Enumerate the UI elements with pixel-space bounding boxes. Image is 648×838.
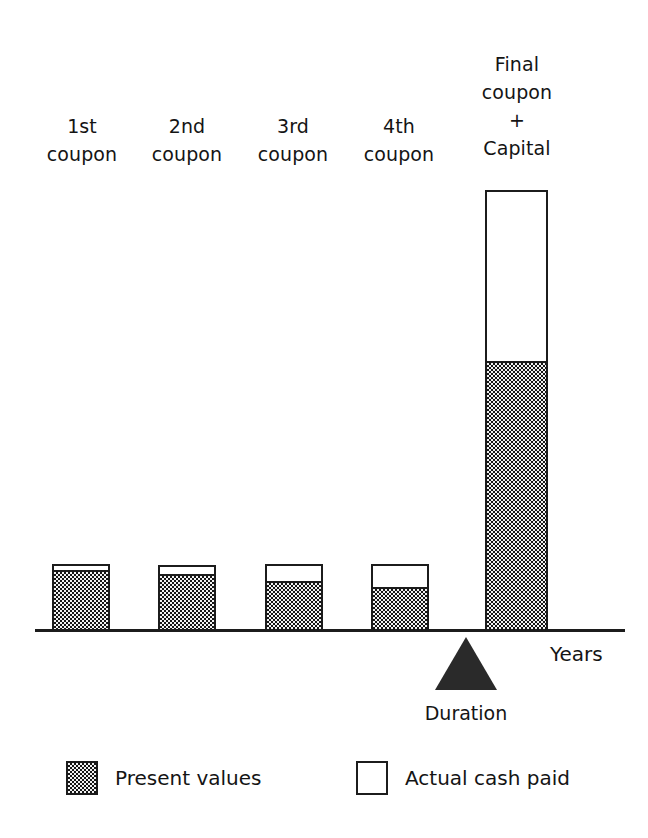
x-axis-line	[35, 629, 625, 632]
years-axis-label: Years	[550, 643, 603, 665]
bar-3rd-coupon	[265, 564, 323, 631]
bar-segment-present-value	[54, 570, 108, 629]
legend-item-present-values: Present values	[66, 758, 261, 798]
duration-label: Duration	[405, 702, 527, 724]
legend-item-actual-cash-paid: Actual cash paid	[356, 758, 570, 798]
duration-marker-triangle	[435, 637, 497, 690]
bar-segment-present-value	[267, 581, 321, 629]
bar-1st-coupon	[52, 564, 110, 631]
bar-final-coupon-capital	[485, 190, 548, 631]
bar-segment-present-value	[160, 574, 214, 629]
bar-2nd-coupon	[158, 565, 216, 631]
legend-label-present-values: Present values	[115, 766, 261, 790]
legend-swatch-actual-cash-paid	[356, 761, 388, 795]
chart-legend: Present values Actual cash paid	[0, 752, 648, 812]
bar-segment-present-value	[487, 361, 546, 629]
legend-swatch-present-values	[66, 761, 98, 795]
legend-label-actual-cash-paid: Actual cash paid	[405, 766, 570, 790]
bond-duration-chart: 1st coupon 2nd coupon 3rd coupon 4th cou…	[0, 0, 648, 838]
bar-segment-present-value	[373, 587, 427, 629]
plot-area: Duration Years	[0, 0, 648, 838]
bar-4th-coupon	[371, 564, 429, 631]
